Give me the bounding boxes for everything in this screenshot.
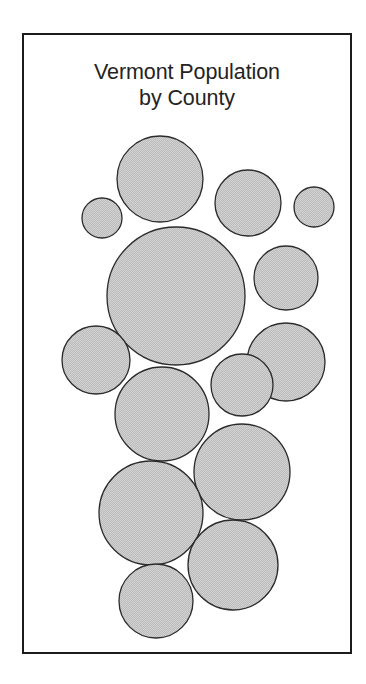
county-bubble <box>115 367 209 461</box>
county-bubble <box>82 198 122 238</box>
county-bubble <box>107 227 245 365</box>
county-bubble <box>99 461 203 565</box>
county-bubble <box>117 136 203 222</box>
bubble-chart-canvas <box>24 35 354 656</box>
county-bubble <box>62 326 130 394</box>
county-bubble <box>194 424 290 520</box>
figure-frame: Vermont Population by County <box>22 33 352 654</box>
county-bubble <box>119 564 193 638</box>
bubble-group <box>62 136 334 638</box>
county-bubble <box>211 354 273 416</box>
figure-page: Vermont Population by County <box>0 0 366 684</box>
county-bubble <box>254 246 318 310</box>
county-bubble <box>215 170 281 236</box>
county-bubble <box>188 520 278 610</box>
county-bubble <box>294 187 334 227</box>
